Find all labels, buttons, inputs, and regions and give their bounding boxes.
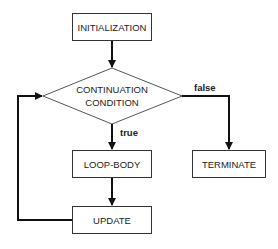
loop-body-label: LOOP-BODY bbox=[84, 159, 141, 170]
arrow-update-loop-back bbox=[18, 96, 72, 220]
condition-label: CONTINUATION CONDITION bbox=[62, 83, 162, 109]
initialization-box: INITIALIZATION bbox=[72, 13, 152, 41]
terminate-label: TERMINATE bbox=[202, 159, 256, 170]
false-label: false bbox=[194, 82, 216, 93]
arrow-false-to-terminate bbox=[182, 96, 229, 149]
true-label: true bbox=[120, 127, 138, 138]
update-label: UPDATE bbox=[93, 215, 131, 226]
update-box: UPDATE bbox=[72, 206, 152, 234]
terminate-box: TERMINATE bbox=[192, 150, 266, 178]
condition-label-line1: CONTINUATION bbox=[62, 83, 162, 96]
condition-label-line2: CONDITION bbox=[62, 96, 162, 109]
loop-body-box: LOOP-BODY bbox=[72, 150, 152, 178]
initialization-label: INITIALIZATION bbox=[78, 22, 147, 33]
